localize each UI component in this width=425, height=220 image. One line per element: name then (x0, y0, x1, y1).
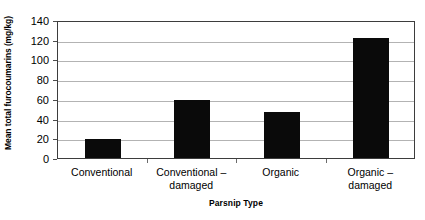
bar (353, 38, 389, 158)
bar (264, 112, 300, 158)
y-axis-tick-label: 20 (37, 134, 49, 145)
x-axis-tick-labels: ConventionalConventional –damagedOrganic… (57, 166, 415, 198)
y-axis-tick-mark (53, 139, 57, 140)
x-axis-category-label: Conventional –damaged (147, 166, 237, 191)
y-axis-tick-mark (53, 80, 57, 81)
y-axis-tick-label: 140 (31, 16, 49, 27)
x-axis-category-label: Conventional (57, 166, 147, 179)
x-axis-category-label-line: Conventional – (147, 166, 237, 179)
x-axis-category-label-line: damaged (147, 179, 237, 192)
x-axis-category-label: Organic (236, 166, 326, 179)
x-axis-category-label-line: Conventional (57, 166, 147, 179)
y-axis-tick-label: 80 (37, 75, 49, 86)
y-axis-tick-label: 0 (43, 154, 49, 165)
x-axis-category-label-line: Organic (236, 166, 326, 179)
y-axis-tick-mark (53, 41, 57, 42)
x-axis-tick-mark (236, 159, 237, 163)
x-axis-title: Parsnip Type (57, 198, 415, 208)
y-axis-tick-mark (53, 21, 57, 22)
y-axis-tick-mark (53, 120, 57, 121)
bar (85, 139, 121, 158)
x-axis-tick-mark (147, 159, 148, 163)
y-axis-tick-label: 60 (37, 94, 49, 105)
x-axis-tick-mark (326, 159, 327, 163)
y-axis-title: Mean total furocoumarins (mg/kg) (0, 0, 16, 165)
x-axis-category-label: Organic –damaged (326, 166, 416, 191)
x-axis-category-label-line: Organic – (326, 166, 416, 179)
plot-area (57, 21, 415, 159)
y-axis-tick-label: 100 (31, 55, 49, 66)
y-axis-tick-label: 120 (31, 35, 49, 46)
y-axis-tick-mark (53, 159, 57, 160)
bar-chart-figure: Mean total furocoumarins (mg/kg) 0204060… (0, 0, 425, 220)
y-axis-title-text: Mean total furocoumarins (mg/kg) (3, 16, 13, 150)
y-axis-tick-mark (53, 60, 57, 61)
y-axis-tick-mark (53, 100, 57, 101)
x-axis-category-label-line: damaged (326, 179, 416, 192)
bar (174, 100, 210, 158)
y-axis-tick-labels: 020406080100120140 (18, 21, 53, 159)
bars-series (58, 22, 414, 158)
y-axis-tick-label: 40 (37, 114, 49, 125)
